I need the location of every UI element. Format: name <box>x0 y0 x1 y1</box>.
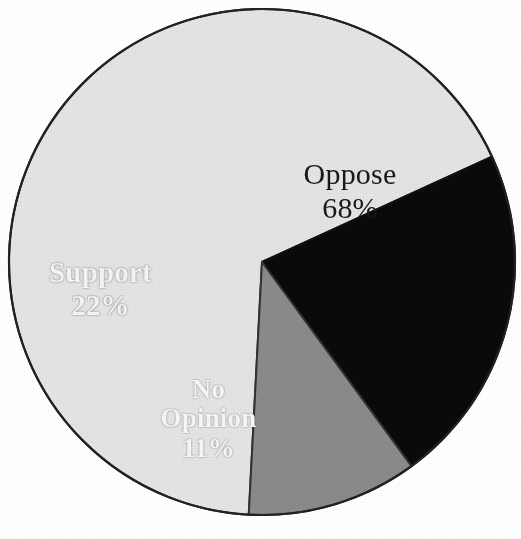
pie-chart-figure: Oppose 68% Support 22% No Opinion 11% <box>0 0 521 539</box>
pie-chart-graphic <box>0 0 521 539</box>
